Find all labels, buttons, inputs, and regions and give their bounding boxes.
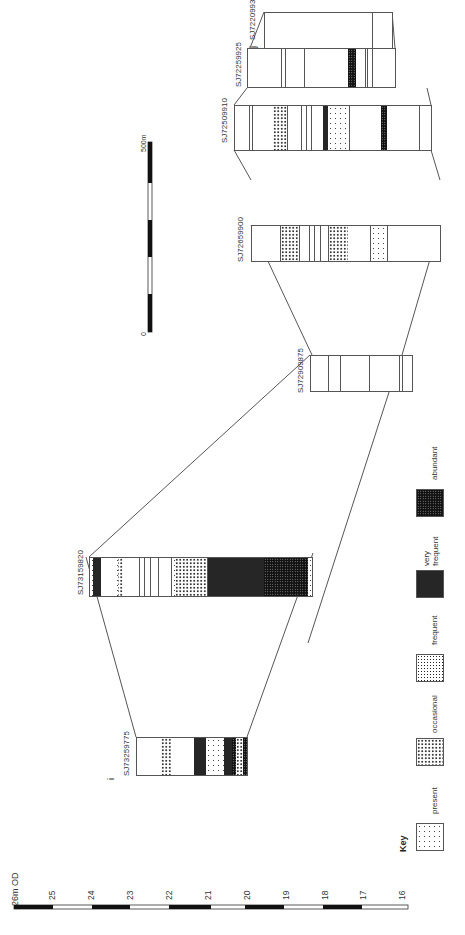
depth-scale-top-label: 26m OD — [10, 872, 20, 906]
key-label-present: present — [430, 787, 439, 814]
borehole-core-SJ72909875 — [310, 355, 413, 392]
depth-tick-label: 17 — [358, 891, 368, 900]
depth-tick-label: 16 — [397, 891, 407, 900]
distance-scale-bar — [148, 142, 152, 332]
borehole-core-SJ72659900 — [251, 225, 441, 262]
borehole-core-SJ73259775 — [136, 737, 248, 776]
borehole-label: SJ72209930 — [248, 0, 257, 40]
distance-scale-start-label: 0 — [140, 332, 147, 336]
borehole-label: SJ72259925 — [234, 42, 243, 87]
depth-tick-label: 19 — [281, 891, 291, 900]
borehole-label: SJ72509910 — [220, 98, 229, 143]
distance-scale-end-label: 500m — [140, 134, 147, 152]
depth-scale-bar — [14, 905, 408, 909]
depth-tick-label: 23 — [125, 891, 135, 900]
key-swatch-present — [416, 823, 444, 851]
borehole-core-SJ73159820 — [89, 557, 313, 597]
key-label-abundant: abundant — [430, 447, 439, 480]
borehole-core-SJ72509910 — [234, 105, 432, 151]
borehole-label: SJ72909875 — [296, 348, 305, 393]
key-label-occasional: occasional — [430, 695, 439, 733]
borehole-label: SJ73159820 — [76, 550, 85, 595]
depth-tick-label: 22 — [164, 891, 174, 900]
key-title: Key — [398, 835, 408, 852]
depth-tick-label: 18 — [320, 891, 330, 900]
borehole-core-SJ72209930 — [264, 12, 393, 49]
depth-tick-label: 20 — [242, 891, 252, 900]
borehole-label: SJ72659900 — [236, 217, 245, 262]
key-swatch-occasional — [416, 738, 444, 766]
key-label-very-frequent: very frequent — [422, 534, 440, 566]
borehole-label: SJ73259775 — [122, 731, 131, 776]
depth-tick-label: 21 — [203, 891, 213, 900]
borehole-marker-i: i — [106, 778, 116, 780]
key-label-frequent: frequent — [430, 616, 439, 645]
key-swatch-very-frequent — [416, 570, 444, 598]
borehole-marker-j: j — [248, 46, 258, 48]
borehole-core-SJ72259925 — [247, 48, 396, 88]
depth-tick-label: 25 — [47, 891, 57, 900]
key-swatch-frequent — [416, 654, 444, 682]
depth-tick-label: 24 — [86, 891, 96, 900]
key-swatch-abundant — [416, 489, 444, 517]
